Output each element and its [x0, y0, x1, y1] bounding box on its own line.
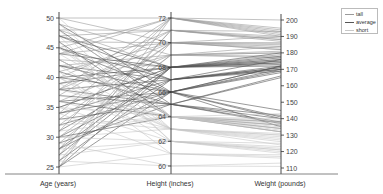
data-line-short	[59, 137, 281, 150]
legend-item-tall: tall	[345, 10, 363, 18]
legend-swatch-short-icon	[345, 30, 354, 31]
legend-swatch-average-icon	[345, 22, 354, 23]
tick-label: 110	[286, 165, 297, 172]
tick-label: 62	[158, 138, 166, 145]
tick-label: 60	[158, 163, 166, 170]
tick-label: 45	[46, 44, 54, 51]
legend-item-short: short	[345, 26, 368, 34]
legend-label-short: short	[356, 27, 368, 33]
tick-label: 35	[46, 104, 54, 111]
legend-swatch-tall-icon	[345, 14, 354, 15]
tick-label: 130	[286, 132, 298, 139]
tick-label: 190	[286, 33, 298, 40]
tick-label: 170	[286, 66, 298, 73]
tick-label: 64	[158, 113, 166, 120]
tick-label: 66	[158, 89, 166, 96]
tick-label: 160	[286, 82, 298, 89]
legend-item-average: average	[345, 18, 376, 26]
tick-label: 150	[286, 99, 298, 106]
axis-title: Height (inches)	[146, 180, 193, 188]
tick-label: 180	[286, 49, 298, 56]
tick-label: 72	[158, 15, 166, 22]
axis-title: Age (years)	[40, 180, 76, 188]
tick-label: 30	[46, 134, 54, 141]
parallel-coordinates-chart: 253035404550Age (years)60626466687072Hei…	[0, 0, 383, 194]
data-lines	[59, 18, 281, 167]
legend-label-average: average	[356, 19, 376, 25]
tick-label: 70	[158, 39, 166, 46]
tick-label: 40	[46, 74, 54, 81]
data-line-tall	[59, 30, 281, 77]
tick-label: 25	[46, 164, 54, 171]
tick-label: 68	[158, 64, 166, 71]
data-line-short	[59, 161, 281, 166]
axis-title: Weight (pounds)	[254, 180, 305, 188]
tick-label: 140	[286, 115, 298, 122]
legend-label-tall: tall	[356, 11, 363, 17]
data-line-tall	[59, 36, 281, 42]
tick-label: 200	[286, 17, 298, 24]
tick-label: 50	[46, 15, 54, 22]
legend: tall average short	[341, 8, 378, 34]
tick-label: 120	[286, 148, 298, 155]
